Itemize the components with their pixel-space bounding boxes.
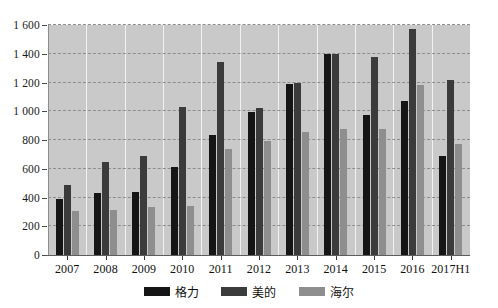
bar bbox=[64, 185, 71, 255]
bar bbox=[439, 156, 446, 255]
y-axis-tick-label: 1 200 bbox=[2, 77, 40, 89]
x-axis-tick-mark bbox=[336, 256, 337, 260]
x-axis-tick-label: 2014 bbox=[324, 262, 348, 277]
bar bbox=[294, 83, 301, 256]
x-axis-tick-mark bbox=[374, 256, 375, 260]
y-axis-tick-mark bbox=[42, 111, 47, 112]
vertical-gridline bbox=[163, 25, 164, 255]
x-axis-tick-label: 2008 bbox=[93, 262, 117, 277]
x-axis-tick-label: 2015 bbox=[362, 262, 386, 277]
vertical-gridline bbox=[86, 25, 87, 255]
legend-label: 海尔 bbox=[330, 283, 354, 300]
y-axis-tick-mark bbox=[42, 255, 47, 256]
y-axis-tick-label: 600 bbox=[2, 163, 40, 175]
vertical-gridline bbox=[317, 25, 318, 255]
bar bbox=[363, 115, 370, 255]
y-axis-tick-mark bbox=[42, 140, 47, 141]
bar bbox=[340, 129, 347, 256]
vertical-gridline bbox=[393, 25, 394, 255]
x-axis-tick-label: 2009 bbox=[132, 262, 156, 277]
y-axis-tick-mark bbox=[42, 169, 47, 170]
gridline bbox=[48, 24, 470, 25]
y-axis-tick-label: 1 000 bbox=[2, 105, 40, 117]
y-axis-tick-label: 800 bbox=[2, 134, 40, 146]
legend-item[interactable]: 美的 bbox=[221, 283, 276, 300]
x-axis-tick-mark bbox=[144, 256, 145, 260]
bar bbox=[225, 149, 232, 255]
y-axis-tick-label: 1 400 bbox=[2, 48, 40, 60]
bar bbox=[401, 101, 408, 255]
bar bbox=[302, 132, 309, 255]
vertical-gridline bbox=[278, 25, 279, 255]
legend-swatch-icon bbox=[299, 287, 325, 296]
y-axis-tick-label: 200 bbox=[2, 220, 40, 232]
x-axis-tick-label: 2016 bbox=[400, 262, 424, 277]
x-axis-tick-label: 2010 bbox=[170, 262, 194, 277]
y-axis-line bbox=[48, 25, 49, 255]
y-axis-tick-mark bbox=[42, 54, 47, 55]
chart-legend: 格力美的海尔 bbox=[0, 283, 498, 300]
x-axis-tick-mark bbox=[297, 256, 298, 260]
bar bbox=[379, 129, 386, 256]
gridline bbox=[48, 53, 470, 54]
y-axis-tick-mark bbox=[42, 25, 47, 26]
vertical-gridline bbox=[432, 25, 433, 255]
x-axis-tick-mark bbox=[259, 256, 260, 260]
x-axis-tick-label: 2012 bbox=[247, 262, 271, 277]
y-axis-tick-label: 0 bbox=[2, 249, 40, 261]
bar bbox=[179, 107, 186, 255]
bar bbox=[110, 210, 117, 255]
bar bbox=[171, 167, 178, 255]
legend-item[interactable]: 海尔 bbox=[299, 283, 354, 300]
bar bbox=[286, 84, 293, 255]
bar bbox=[94, 193, 101, 255]
legend-label: 美的 bbox=[252, 283, 276, 300]
vertical-gridline bbox=[355, 25, 356, 255]
x-axis-tick-mark bbox=[221, 256, 222, 260]
bar bbox=[148, 207, 155, 255]
x-axis-tick-label: 2013 bbox=[285, 262, 309, 277]
bar bbox=[132, 192, 139, 255]
y-axis-tick-labels: 02004006008001 0001 2001 4001 600 bbox=[0, 0, 40, 308]
legend-swatch-icon bbox=[221, 287, 247, 296]
bar bbox=[324, 54, 331, 255]
bar bbox=[56, 199, 63, 255]
bar bbox=[209, 135, 216, 255]
x-axis-tick-mark bbox=[67, 256, 68, 260]
gridline bbox=[48, 82, 470, 83]
bar bbox=[455, 144, 462, 255]
bar bbox=[447, 80, 454, 255]
x-axis-tick-mark bbox=[106, 256, 107, 260]
bar bbox=[371, 57, 378, 255]
x-axis-tick-label: 2007 bbox=[55, 262, 79, 277]
bar bbox=[248, 112, 255, 255]
bar bbox=[256, 108, 263, 255]
y-axis-tick-label: 1 600 bbox=[2, 19, 40, 31]
legend-swatch-icon bbox=[144, 287, 170, 296]
plot-area bbox=[48, 25, 470, 255]
x-axis-tick-label: 2017H1 bbox=[431, 262, 470, 277]
vertical-gridline bbox=[125, 25, 126, 255]
bar bbox=[102, 162, 109, 255]
bar bbox=[140, 156, 147, 255]
bar bbox=[187, 206, 194, 255]
legend-item[interactable]: 格力 bbox=[144, 283, 199, 300]
y-axis-tick-mark bbox=[42, 226, 47, 227]
bar bbox=[217, 62, 224, 255]
bar bbox=[409, 29, 416, 255]
vertical-gridline bbox=[240, 25, 241, 255]
y-axis-tick-label: 400 bbox=[2, 192, 40, 204]
x-axis-tick-label: 2011 bbox=[209, 262, 233, 277]
bar bbox=[332, 54, 339, 255]
x-axis-tick-mark bbox=[412, 256, 413, 260]
legend-label: 格力 bbox=[175, 283, 199, 300]
bar bbox=[72, 211, 79, 255]
y-axis-tick-mark bbox=[42, 83, 47, 84]
bar bbox=[417, 85, 424, 255]
y-axis-tick-mark bbox=[42, 198, 47, 199]
x-axis-tick-mark bbox=[182, 256, 183, 260]
x-axis-tick-mark bbox=[451, 256, 452, 260]
bar bbox=[264, 141, 271, 255]
bar-chart-figure: 02004006008001 0001 2001 4001 600 200720… bbox=[0, 0, 498, 308]
vertical-gridline bbox=[201, 25, 202, 255]
